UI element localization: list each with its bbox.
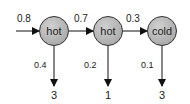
state-label-1: hot — [46, 25, 61, 37]
emission-prob-label-2: 0.2 — [84, 60, 97, 70]
state-node-2: hot — [94, 17, 123, 46]
state-node-3: cold — [148, 17, 177, 46]
transition-prob-label-1: 0.7 — [74, 13, 88, 24]
transition-prob-label-2: 0.3 — [126, 13, 140, 24]
state-node-1: hot — [40, 17, 69, 46]
emission-prob-label-3: 0.1 — [141, 60, 154, 70]
start-prob-label: 0.8 — [17, 13, 31, 24]
state-label-3: cold — [152, 25, 172, 37]
observation-3: 3 — [159, 89, 165, 101]
hmm-diagram: 0.8 0.7 0.3 hot hot cold 0.4 3 0.2 1 0.1… — [0, 0, 190, 104]
observation-2: 1 — [105, 89, 111, 101]
emission-prob-label-1: 0.4 — [34, 60, 47, 70]
state-label-2: hot — [100, 25, 115, 37]
observation-1: 3 — [51, 89, 57, 101]
